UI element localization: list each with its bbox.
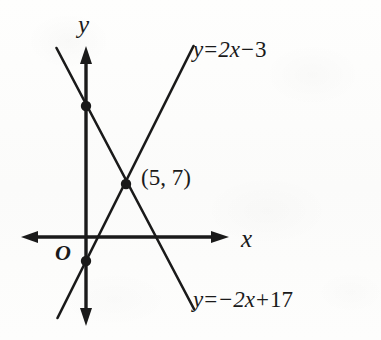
equation-rising-lhs: y	[193, 37, 203, 62]
equation-falling-operator: +	[255, 287, 270, 312]
point-marker-intersection	[121, 179, 131, 189]
equation-falling-lhs: y	[193, 287, 203, 312]
point-marker-y-intercept-rising-line	[81, 256, 91, 266]
x-axis-label: x	[241, 226, 252, 251]
equation-falling-constant: 17	[270, 287, 293, 312]
intersection-point-label: (5, 7)	[141, 166, 191, 189]
y-axis-bottom-arrowhead	[80, 308, 92, 326]
equation-label-falling-line: y=−2x+17	[193, 288, 293, 311]
equation-rising-coefficient-term: 2x	[218, 37, 240, 62]
equation-rising-operator: −	[240, 37, 255, 62]
x-axis	[21, 231, 229, 243]
graph-figure: y x O (5, 7) y=2x−3 y=−2x+17	[0, 0, 381, 340]
equation-falling-coefficient-term: 2x	[233, 287, 255, 312]
equation-rising-equals: =	[203, 37, 218, 62]
x-axis-right-arrowhead	[211, 231, 229, 243]
equation-label-rising-line: y=2x−3	[193, 38, 266, 61]
equation-falling-equals: =	[203, 287, 218, 312]
y-axis	[80, 46, 92, 326]
y-axis-label: y	[78, 12, 89, 37]
point-marker-y-intercept-falling-line	[81, 101, 91, 111]
origin-label: O	[55, 242, 71, 264]
equation-rising-constant: 3	[255, 37, 267, 62]
x-axis-left-arrowhead	[21, 231, 38, 243]
y-axis-top-arrowhead	[80, 46, 92, 64]
equation-falling-sign: −	[218, 287, 233, 312]
